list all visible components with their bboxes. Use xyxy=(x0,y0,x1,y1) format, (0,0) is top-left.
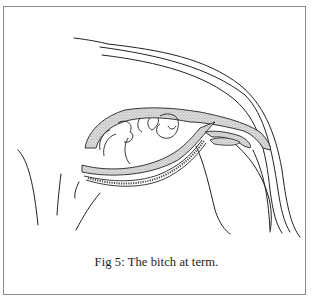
front-leg-line-1 xyxy=(18,150,38,225)
ventral-line xyxy=(76,193,100,230)
abdomen-line xyxy=(196,146,230,234)
front-leg-line-3 xyxy=(75,182,79,198)
figure-caption: Fig 5: The bitch at term. xyxy=(0,255,313,270)
front-leg-line-2 xyxy=(57,174,61,215)
hind-leg-line xyxy=(253,150,270,230)
back-line-outer xyxy=(74,38,300,237)
belly-line-right xyxy=(230,140,271,232)
